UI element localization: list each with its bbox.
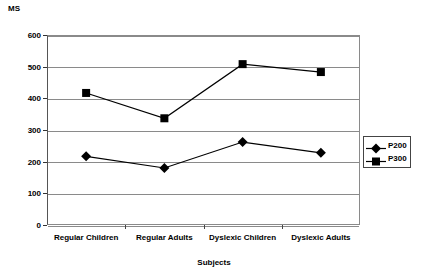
y-tick-label: 500	[11, 62, 41, 71]
y-tick-label: 200	[11, 157, 41, 166]
gridline	[48, 99, 359, 100]
y-tick-mark	[43, 35, 47, 36]
legend-item: P200	[365, 139, 407, 152]
y-axis-title: MS	[8, 4, 20, 13]
gridline	[48, 36, 359, 37]
y-tick-label: 600	[11, 31, 41, 40]
chart-container: MS 0100200300400500600 Regular ChildrenR…	[0, 0, 428, 278]
legend-item: P300	[365, 152, 407, 165]
y-tick-mark	[43, 130, 47, 131]
legend-label: P300	[387, 154, 407, 163]
x-tick-mark	[204, 225, 205, 229]
plot-area	[47, 35, 360, 225]
y-tick-label: 0	[11, 221, 41, 230]
legend-square-icon	[365, 153, 387, 164]
gridline	[48, 162, 359, 163]
y-tick-mark	[43, 193, 47, 194]
y-tick-mark	[43, 98, 47, 99]
gridline	[48, 67, 359, 68]
chart-legend: P200P300	[363, 136, 411, 168]
gridline	[48, 194, 359, 195]
x-tick-label: Regular Children	[54, 233, 118, 242]
x-tick-mark	[282, 225, 283, 229]
legend-diamond-icon	[365, 140, 387, 151]
y-tick-mark	[43, 162, 47, 163]
y-tick-label: 100	[11, 189, 41, 198]
x-axis-title: Subjects	[0, 258, 428, 267]
y-tick-label: 400	[11, 94, 41, 103]
y-tick-mark	[43, 225, 47, 226]
gridline	[48, 131, 359, 132]
y-tick-label: 300	[11, 126, 41, 135]
legend-label: P200	[387, 141, 407, 150]
x-tick-mark	[125, 225, 126, 229]
x-tick-label: Dyslexic Adults	[291, 233, 350, 242]
x-tick-label: Dyslexic Children	[209, 233, 276, 242]
x-tick-label: Regular Adults	[136, 233, 193, 242]
y-tick-mark	[43, 67, 47, 68]
